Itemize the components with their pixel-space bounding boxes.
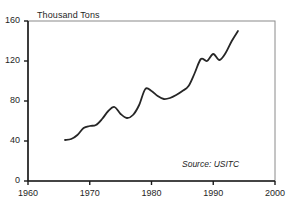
y-axis-tick-label: 160 [0,15,20,25]
data-series-line [65,31,238,140]
x-axis-tick-label: 1990 [193,188,233,198]
x-axis-tick-label: 1960 [8,188,48,198]
y-axis-tick-label: 0 [0,175,20,185]
x-axis-tick-label: 1980 [132,188,172,198]
chart-container: Thousand Tons 04080120160 19601970198019… [0,0,288,214]
source-annotation: Source: USITC [182,159,239,169]
x-axis-tick-label: 1970 [70,188,110,198]
x-axis-tick-label: 2000 [255,188,288,198]
y-axis-tick-label: 120 [0,55,20,65]
line-chart-plot [0,0,288,214]
y-axis-tick-label: 40 [0,135,20,145]
plot-frame [28,21,275,181]
y-axis-tick-label: 80 [0,95,20,105]
